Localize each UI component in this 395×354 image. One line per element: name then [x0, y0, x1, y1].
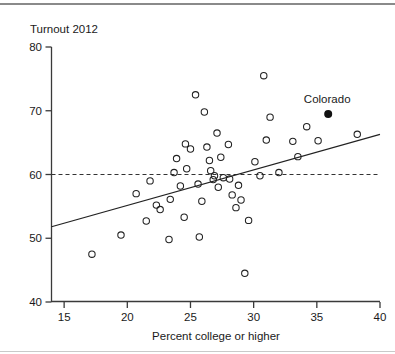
data-point: [199, 198, 205, 204]
data-point: [143, 218, 149, 224]
y-tick-label: 70: [29, 105, 42, 117]
data-point: [235, 182, 241, 188]
y-tick-label: 50: [29, 232, 42, 244]
data-point: [242, 270, 248, 276]
data-point: [201, 109, 207, 115]
x-tick-label: 35: [310, 311, 323, 323]
data-point: [187, 146, 193, 152]
data-point: [157, 206, 163, 212]
data-point: [214, 130, 220, 136]
y-axis-ticks: 4050607080: [29, 41, 51, 308]
x-axis-title: Percent college or higher: [152, 330, 280, 342]
x-tick-label: 30: [247, 311, 260, 323]
data-point: [304, 123, 310, 129]
data-point: [215, 184, 221, 190]
bottom-rule-divider: [0, 351, 395, 352]
data-point: [257, 173, 263, 179]
figure-container: Turnout 2012 4050607080 152025303540 Col…: [0, 0, 395, 354]
data-point: [225, 141, 231, 147]
data-point: [173, 155, 179, 161]
data-point: [192, 92, 198, 98]
x-tick-label: 25: [184, 311, 197, 323]
data-point: [263, 137, 269, 143]
data-point: [252, 159, 258, 165]
data-point: [229, 192, 235, 198]
data-point: [195, 181, 201, 187]
data-point: [204, 144, 210, 150]
data-point: [196, 234, 202, 240]
scatter-plot: Turnout 2012 4050607080 152025303540 Col…: [0, 0, 395, 354]
y-tick-label: 60: [29, 169, 42, 181]
data-point: [245, 217, 251, 223]
data-point: [261, 72, 267, 78]
colorado-annotation-label: Colorado: [304, 93, 351, 105]
y-tick-label: 40: [29, 296, 42, 308]
data-point: [267, 114, 273, 120]
data-point: [181, 214, 187, 220]
data-point: [183, 166, 189, 172]
data-point: [315, 138, 321, 144]
data-point: [182, 141, 188, 147]
data-point: [89, 251, 95, 257]
data-point: [290, 138, 296, 144]
data-point: [354, 131, 360, 137]
data-point: [233, 204, 239, 210]
y-tick-label: 80: [29, 41, 42, 53]
data-point: [238, 197, 244, 203]
data-point: [211, 173, 217, 179]
data-point: [118, 232, 124, 238]
data-point: [166, 236, 172, 242]
highlight-point: [324, 110, 332, 118]
x-tick-label: 15: [58, 311, 71, 323]
data-point: [206, 157, 212, 163]
highlighted-data-point: [324, 110, 332, 118]
data-point: [147, 178, 153, 184]
top-rule-divider: [0, 3, 395, 5]
data-point: [167, 196, 173, 202]
x-tick-label: 20: [121, 311, 134, 323]
y-axis-corner-label: Turnout 2012: [30, 23, 98, 35]
data-point: [218, 154, 224, 160]
x-tick-label: 40: [374, 311, 387, 323]
x-axis-ticks: 152025303540: [58, 302, 387, 323]
data-point: [177, 183, 183, 189]
data-point: [133, 190, 139, 196]
